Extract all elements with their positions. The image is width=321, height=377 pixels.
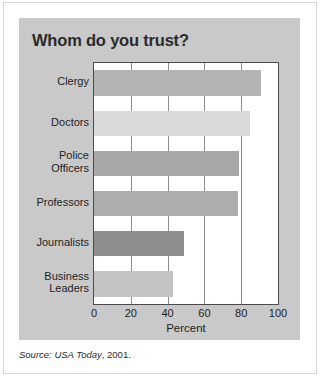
x-tick-label: 20 xyxy=(125,307,137,319)
category-label: Professors xyxy=(36,196,89,209)
chart-title: Whom do you trust? xyxy=(32,31,189,50)
x-tick-label: 0 xyxy=(91,307,97,319)
bar xyxy=(94,70,261,95)
category-label: Journalists xyxy=(36,236,89,249)
bar xyxy=(94,151,239,176)
x-tick-label: 40 xyxy=(161,307,173,319)
source-prefix: Source: xyxy=(19,349,52,360)
category-axis-labels: ClergyDoctorsPolice OfficersProfessorsJo… xyxy=(19,62,89,305)
bar-row xyxy=(94,191,278,216)
source-note: Source: USA Today, 2001. xyxy=(19,349,131,360)
bar-row xyxy=(94,70,278,95)
bar xyxy=(94,191,238,216)
bar-row xyxy=(94,271,278,296)
source-publication: USA Today xyxy=(54,349,101,360)
x-axis-title: Percent xyxy=(93,322,279,334)
category-label: Police Officers xyxy=(51,149,89,174)
gridline xyxy=(131,63,132,304)
chart-panel: Whom do you trust? ClergyDoctorsPolice O… xyxy=(19,18,300,340)
category-label: Business Leaders xyxy=(44,270,89,295)
bar-row xyxy=(94,231,278,256)
plot-inner xyxy=(94,63,278,304)
gridline xyxy=(204,63,205,304)
bar xyxy=(94,231,184,256)
gridline xyxy=(241,63,242,304)
category-label: Clergy xyxy=(57,75,89,88)
x-axis-ticks: 020406080100 xyxy=(93,307,279,323)
bar-row xyxy=(94,111,278,136)
x-tick-label: 60 xyxy=(198,307,210,319)
gridline xyxy=(168,63,169,304)
bar-row xyxy=(94,151,278,176)
x-tick-label: 80 xyxy=(235,307,247,319)
category-label: Doctors xyxy=(51,116,89,129)
plot-area xyxy=(93,62,279,305)
source-year: , 2001. xyxy=(102,349,131,360)
x-tick-label: 100 xyxy=(269,307,287,319)
figure-root: Whom do you trust? ClergyDoctorsPolice O… xyxy=(0,0,321,377)
bar xyxy=(94,111,250,136)
bar xyxy=(94,271,173,296)
